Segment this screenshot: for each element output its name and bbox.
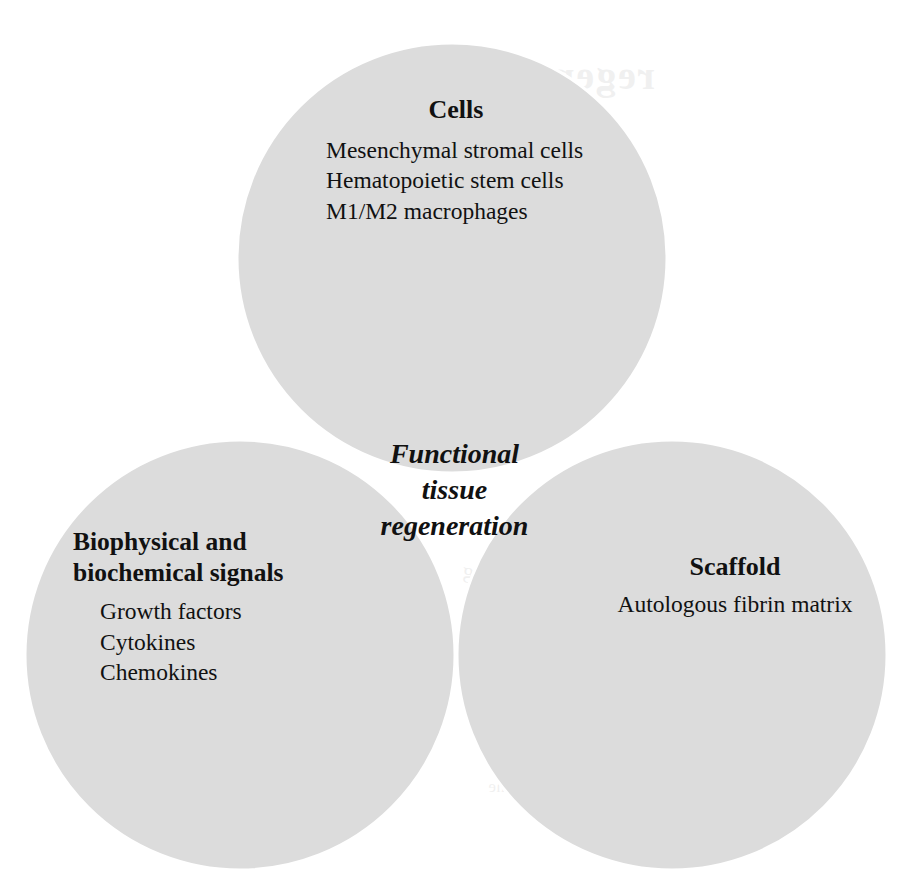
set-items-scaffold: Autologous fibrin matrix [585,589,885,620]
set-label-cells: Cells Mesenchymal stromal cells Hematopo… [326,95,586,226]
set-items-signals: Growth factors Cytokines Chemokines [73,596,348,688]
list-item: Cytokines [100,627,348,658]
center-line-2: tissue [363,472,546,508]
venn-diagram-figure: regeneration once chronic tissue studies… [0,0,905,876]
center-line-1: Functional [363,436,546,472]
center-line-3: regeneration [363,508,546,544]
list-item: Mesenchymal stromal cells [326,135,586,166]
set-label-signals: Biophysical and biochemical signals Grow… [73,527,348,688]
set-title-signals-line1: Biophysical and [73,527,247,556]
set-items-cells: Mesenchymal stromal cells Hematopoietic … [326,135,586,227]
list-item: Hematopoietic stem cells [326,165,586,196]
set-title-scaffold: Scaffold [585,552,885,583]
list-item: M1/M2 macrophages [326,196,586,227]
set-title-signals: Biophysical and biochemical signals [73,527,348,588]
set-title-signals-line2: biochemical signals [73,558,283,587]
center-intersection-label: Functional tissue regeneration [363,436,546,543]
set-title-cells: Cells [326,95,586,126]
list-item: Growth factors [100,596,348,627]
set-label-scaffold: Scaffold Autologous fibrin matrix [585,552,885,619]
list-item: Autologous fibrin matrix [585,589,885,620]
list-item: Chemokines [100,657,348,688]
